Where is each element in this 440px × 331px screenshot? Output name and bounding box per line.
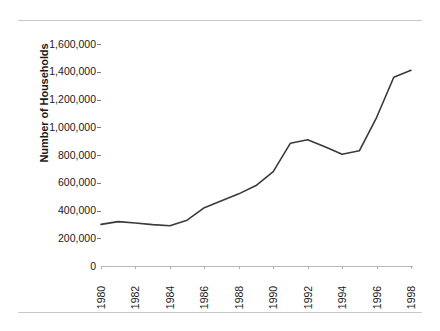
- x-axis-tick-mark: [342, 266, 343, 269]
- series-polyline: [101, 70, 411, 225]
- x-axis-tick-mark: [308, 266, 309, 269]
- x-axis-tick-mark: [239, 266, 240, 269]
- x-axis-tick-mark: [411, 266, 412, 269]
- x-axis-tick-mark: [377, 266, 378, 269]
- x-axis-tick-mark: [135, 266, 136, 269]
- y-axis-tick-mark: [97, 211, 101, 212]
- y-axis-tick-mark: [97, 155, 101, 156]
- x-axis-tick-mark: [170, 266, 171, 269]
- series-line-households: [0, 0, 440, 331]
- y-axis-tick-mark: [97, 238, 101, 239]
- y-axis-tick-mark: [97, 183, 101, 184]
- x-axis-tick-mark: [101, 266, 102, 269]
- y-axis-tick-mark: [97, 127, 101, 128]
- y-axis-tick-mark: [97, 44, 101, 45]
- line-chart: Number of Households 0200,000400,000600,…: [0, 0, 440, 331]
- x-axis-tick-mark: [204, 266, 205, 269]
- y-axis-tick-mark: [97, 72, 101, 73]
- x-axis-tick-mark: [273, 266, 274, 269]
- y-axis-tick-mark: [97, 100, 101, 101]
